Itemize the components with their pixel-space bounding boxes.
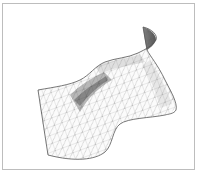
mesh-surface-figure: [0, 0, 200, 176]
mesh-surface: [30, 20, 190, 170]
